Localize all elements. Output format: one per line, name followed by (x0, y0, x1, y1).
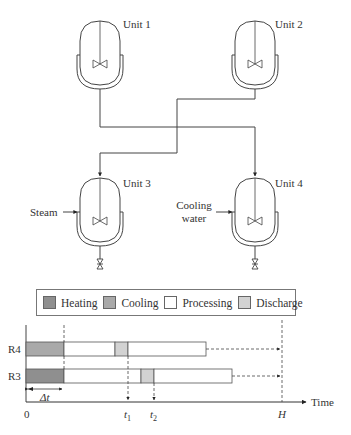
unit-1-label: Unit 1 (123, 19, 151, 30)
legend-item-cooling: Cooling (103, 296, 158, 309)
unit-3-label: Unit 3 (123, 178, 151, 189)
unit-2-label: Unit 2 (275, 19, 303, 30)
origin-label: 0 (24, 409, 30, 420)
delta-t-label: Δt (40, 392, 50, 403)
legend-label: Cooling (121, 297, 158, 309)
valve-icon-unit-4 (252, 259, 258, 269)
gantt-row-r3 (26, 369, 280, 383)
t1-label: t1 (124, 409, 131, 423)
vessel-unit-4 (232, 178, 278, 246)
legend-label: Processing (182, 297, 232, 309)
legend-item-heating: Heating (43, 296, 97, 309)
time-axis-label: Time (311, 397, 334, 408)
gantt-row-r4 (26, 342, 280, 356)
cooling-water-label-line2: water (174, 213, 214, 224)
horizon-label: H (278, 409, 286, 420)
legend: Heating Cooling Processing Discharge (36, 289, 296, 316)
vessel-unit-3 (77, 178, 123, 246)
heating-swatch (43, 296, 56, 309)
row-label-r3: R3 (8, 371, 21, 382)
pipe-unit2-to-unit3 (100, 89, 255, 176)
unit-4-label: Unit 4 (275, 178, 303, 189)
vessel-unit-1 (77, 21, 123, 89)
legend-item-discharge: Discharge (238, 296, 302, 309)
discharge-swatch (238, 296, 251, 309)
legend-label: Heating (61, 297, 97, 309)
processing-swatch (164, 296, 177, 309)
vessel-unit-2 (232, 21, 278, 89)
legend-label: Discharge (256, 297, 302, 309)
t2-label: t2 (150, 409, 157, 423)
valve-icon-unit-3 (97, 259, 103, 269)
row-label-r4: R4 (8, 344, 21, 355)
cooling-water-label-line1: Cooling (174, 200, 214, 211)
cooling-swatch (103, 296, 116, 309)
legend-item-processing: Processing (164, 296, 232, 309)
steam-label: Steam (30, 207, 58, 218)
